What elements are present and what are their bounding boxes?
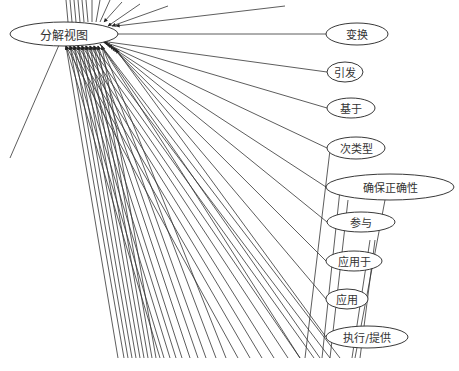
node-label-cileixing[interactable]: 次类型 xyxy=(340,140,373,156)
fan-edges xyxy=(10,0,340,358)
node-label-zhixing[interactable]: 执行/提供 xyxy=(343,329,391,345)
node-label-jiyu[interactable]: 基于 xyxy=(340,100,362,116)
node-label-yingyong[interactable]: 应用 xyxy=(336,291,358,307)
node-label-bianhuan[interactable]: 变换 xyxy=(346,26,368,42)
node-label-canyu[interactable]: 参与 xyxy=(350,214,372,230)
hub-node-label[interactable]: 分解视图 xyxy=(40,26,88,43)
node-label-yinfa[interactable]: 引发 xyxy=(334,64,356,80)
node-label-quebao[interactable]: 确保正确性 xyxy=(363,179,418,195)
node-label-yingyongyu[interactable]: 应用于 xyxy=(338,253,371,269)
node-edges xyxy=(100,34,327,337)
